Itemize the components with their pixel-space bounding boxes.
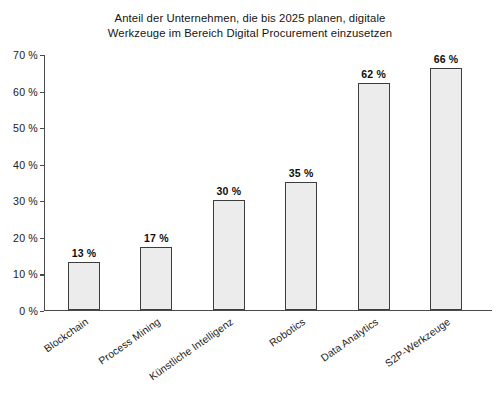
y-tick-mark xyxy=(40,55,44,56)
y-axis-line xyxy=(44,55,45,311)
y-tick-label: 60 % xyxy=(13,86,38,98)
y-tick-label: 40 % xyxy=(13,159,38,171)
bar-value-label: 17 % xyxy=(144,232,169,244)
x-axis-line xyxy=(44,310,492,311)
chart-title-line-2: Werkzeuge im Bereich Digital Procurement… xyxy=(60,26,440,41)
bar-chart-figure: Anteil der Unternehmen, die bis 2025 pla… xyxy=(0,0,500,414)
y-tick-label: 20 % xyxy=(13,232,38,244)
bar-value-label: 62 % xyxy=(361,68,386,80)
y-tick-mark xyxy=(40,311,44,312)
y-tick-label: 30 % xyxy=(13,195,38,207)
bar-s2p-werkzeuge xyxy=(430,68,462,309)
bar-value-label: 30 % xyxy=(216,185,241,197)
plot-area: 0 % 10 % 20 % 30 % 40 % 50 % 60 % 70 % xyxy=(44,55,492,311)
bar-data-analytics xyxy=(358,83,390,310)
bar-value-label: 66 % xyxy=(434,53,459,65)
y-tick-mark xyxy=(40,238,44,239)
y-tick-mark xyxy=(40,201,44,202)
y-tick-label: 50 % xyxy=(13,122,38,134)
y-tick-mark xyxy=(40,274,44,275)
bar-value-label: 35 % xyxy=(289,167,314,179)
y-tick-label: 0 % xyxy=(19,305,38,317)
chart-title: Anteil der Unternehmen, die bis 2025 pla… xyxy=(60,11,440,41)
bar-blockchain xyxy=(68,262,100,310)
bar-robotics xyxy=(285,182,317,310)
y-tick-label: 70 % xyxy=(13,49,38,61)
y-tick-mark xyxy=(40,165,44,166)
bar-kuenstliche-intelligenz xyxy=(213,200,245,310)
y-tick-label: 10 % xyxy=(13,268,38,280)
chart-title-line-1: Anteil der Unternehmen, die bis 2025 pla… xyxy=(60,11,440,26)
y-tick-mark xyxy=(40,92,44,93)
y-tick-mark xyxy=(40,128,44,129)
bar-value-label: 13 % xyxy=(72,247,97,259)
bar-process-mining xyxy=(140,247,172,309)
